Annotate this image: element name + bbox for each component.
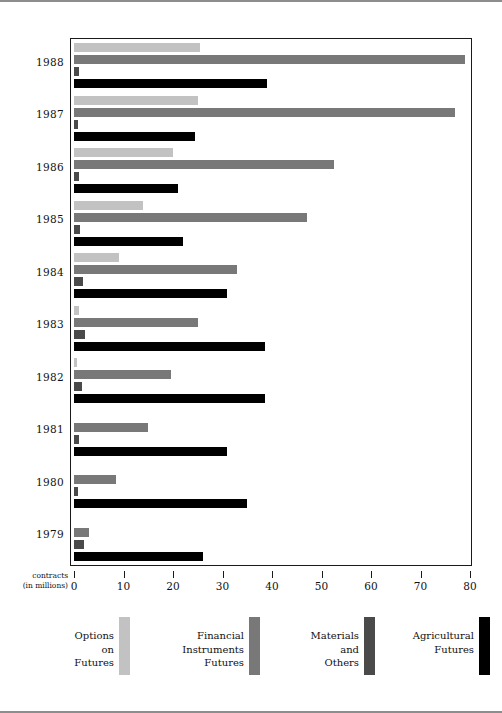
legend-label: AgriculturalFutures <box>413 629 474 656</box>
bar <box>74 253 119 262</box>
bar <box>74 67 79 76</box>
bar <box>74 55 465 64</box>
axis-caption-line2: (in millions) <box>6 581 68 591</box>
legend-item[interactable]: AgriculturalFutures <box>420 617 490 679</box>
legend-label-line: Futures <box>74 656 114 670</box>
year-group: 1985 <box>74 201 472 254</box>
chart-legend: OptionsonFuturesFinancialInstrumentsFutu… <box>0 617 502 687</box>
bar <box>74 394 265 403</box>
bar <box>74 540 84 549</box>
bar <box>74 289 227 298</box>
axis-caption: contracts (in millions) <box>6 571 68 590</box>
year-axis-label: 1981 <box>4 423 64 435</box>
year-axis-label: 1986 <box>4 161 64 173</box>
axis-tick-label: 80 <box>463 580 476 592</box>
year-axis-label: 1982 <box>4 371 64 383</box>
axis-tick-mark <box>124 571 125 578</box>
legend-label-line: Materials <box>311 629 359 643</box>
axis-tick-mark <box>322 571 323 578</box>
legend-item[interactable]: MaterialsandOthers <box>305 617 375 679</box>
legend-swatch <box>479 617 490 675</box>
bar <box>74 528 89 537</box>
year-group: 1981 <box>74 411 472 464</box>
bar <box>74 237 183 246</box>
legend-label-line: Instruments <box>182 643 244 657</box>
legend-label-line: Futures <box>182 656 244 670</box>
legend-label-line: Agricultural <box>413 629 474 643</box>
legend-label-line: Options <box>74 629 114 643</box>
bar <box>74 487 78 496</box>
bar <box>74 499 247 508</box>
bar <box>74 306 79 315</box>
legend-label-line: on <box>74 643 114 657</box>
bar <box>74 370 171 379</box>
year-group: 1988 <box>74 43 472 96</box>
bar <box>74 342 265 351</box>
bar <box>74 330 85 339</box>
legend-label-line: Others <box>311 656 359 670</box>
bar <box>74 132 195 141</box>
axis-tick-label: 40 <box>265 580 278 592</box>
bar <box>74 447 227 456</box>
axis-tick-label: 60 <box>364 580 377 592</box>
axis-tick-mark <box>74 571 75 578</box>
axis-tick-label: 30 <box>216 580 229 592</box>
year-axis-label: 1984 <box>4 266 64 278</box>
bar <box>74 43 200 52</box>
legend-item[interactable]: FinancialInstrumentsFutures <box>190 617 260 679</box>
legend-swatch <box>364 617 375 675</box>
bars-layer: 1988198719861985198419831982198119801979 <box>74 39 472 565</box>
bar <box>74 358 77 367</box>
x-axis: 01020304050607080 <box>0 566 502 600</box>
year-group: 1987 <box>74 96 472 149</box>
legend-label-line: Financial <box>182 629 244 643</box>
bar <box>74 225 80 234</box>
year-group: 1982 <box>74 358 472 411</box>
legend-label-line: and <box>311 643 359 657</box>
axis-tick-mark <box>371 571 372 578</box>
legend-label-line: Futures <box>413 643 474 657</box>
bar <box>74 265 237 274</box>
bar <box>74 423 148 432</box>
bar <box>74 382 82 391</box>
year-group: 1979 <box>74 516 472 569</box>
axis-tick-mark <box>173 571 174 578</box>
axis-tick-label: 70 <box>414 580 427 592</box>
axis-tick-mark <box>272 571 273 578</box>
bar <box>74 201 143 210</box>
bar <box>74 552 203 561</box>
legend-label: OptionsonFutures <box>74 629 114 670</box>
year-group: 1983 <box>74 306 472 359</box>
axis-tick-label: 0 <box>71 580 78 592</box>
year-axis-label: 1980 <box>4 476 64 488</box>
bar <box>74 96 198 105</box>
bar <box>74 318 198 327</box>
legend-swatch <box>119 617 130 675</box>
year-axis-label: 1987 <box>4 108 64 120</box>
axis-tick-label: 20 <box>166 580 179 592</box>
legend-swatch <box>249 617 260 675</box>
axis-caption-line1: contracts <box>6 571 68 581</box>
bar <box>74 184 178 193</box>
year-axis-label: 1985 <box>4 213 64 225</box>
year-group: 1984 <box>74 253 472 306</box>
legend-label: FinancialInstrumentsFutures <box>182 629 244 670</box>
axis-tick-label: 50 <box>315 580 328 592</box>
legend-item[interactable]: OptionsonFutures <box>60 617 130 679</box>
axis-tick-mark <box>421 571 422 578</box>
bar <box>74 120 78 129</box>
bar <box>74 475 116 484</box>
bar <box>74 108 455 117</box>
axis-tick-mark <box>223 571 224 578</box>
bar <box>74 172 79 181</box>
year-group: 1986 <box>74 148 472 201</box>
axis-tick-label: 10 <box>117 580 130 592</box>
year-axis-label: 1988 <box>4 56 64 68</box>
year-group: 1980 <box>74 463 472 516</box>
chart-page: 1988198719861985198419831982198119801979… <box>0 0 502 713</box>
bar <box>74 160 334 169</box>
axis-tick-mark <box>470 571 471 578</box>
bar <box>74 435 79 444</box>
legend-label: MaterialsandOthers <box>311 629 359 670</box>
year-axis-label: 1983 <box>4 318 64 330</box>
